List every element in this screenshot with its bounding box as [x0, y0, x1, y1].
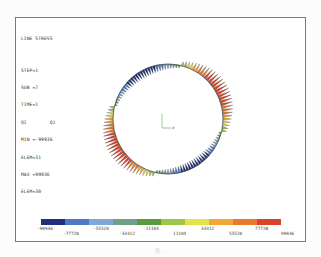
stress-spike [161, 170, 164, 174]
stress-spike [106, 115, 114, 118]
stress-spike [172, 168, 175, 174]
ring-stress-plot: x [16, 18, 307, 243]
stress-spike [178, 166, 181, 173]
stress-spike [223, 112, 233, 115]
stress-spike [103, 123, 113, 126]
stress-spike [107, 112, 114, 115]
stress-spike [175, 167, 178, 173]
stress-spike [108, 109, 114, 112]
stress-spike [167, 64, 170, 69]
stress-spike [223, 118, 231, 121]
stress-spike [223, 121, 231, 124]
stress-spike [223, 115, 232, 118]
legend-label: -55520 [93, 226, 109, 231]
stress-spike [222, 109, 233, 112]
figure-caption: 图 ... [0, 246, 321, 253]
stress-spike [103, 129, 114, 133]
stress-spike [223, 123, 230, 126]
stress-spike [172, 64, 175, 68]
stress-spike [103, 126, 114, 129]
stress-spike [164, 64, 167, 70]
legend-label: -77728 [63, 231, 79, 236]
stress-spike [105, 118, 113, 121]
stress-spike [161, 64, 164, 70]
legend-label: 77728 [255, 226, 268, 231]
legend-label: 11104 [173, 231, 186, 236]
stress-spike [222, 126, 228, 129]
stress-spike [164, 169, 167, 174]
legend-label: 33312 [201, 226, 214, 231]
legend-label: -33312 [119, 231, 135, 236]
plot-window: LINE STRESS STEP=1 SUB =7 TIME=1 QI QJ M… [15, 17, 306, 242]
stress-spike [170, 168, 173, 174]
legend-ticks: -99936 -55520 -11104 33312 77728 -77728 … [41, 225, 296, 239]
stress-spike [222, 105, 233, 109]
stress-spike [104, 121, 113, 124]
stress-spike [155, 65, 158, 72]
legend-label: -11104 [143, 226, 159, 231]
stress-spike [158, 64, 161, 70]
legend-label: 55520 [229, 231, 242, 236]
legend-label: -99936 [37, 226, 53, 231]
coordinate-triad: x [162, 114, 175, 130]
stress-spike [167, 169, 170, 174]
triad-x-label: x [172, 125, 175, 130]
color-legend: -99936 -55520 -11104 33312 77728 -77728 … [41, 219, 296, 239]
legend-label: 99936 [281, 231, 294, 236]
stress-spikes [103, 62, 232, 176]
stress-spike [170, 64, 173, 69]
